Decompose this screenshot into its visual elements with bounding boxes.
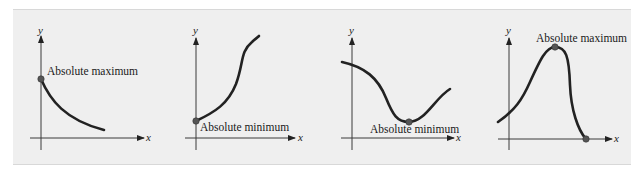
absolute-maximum-point: [38, 76, 44, 82]
x-axis-label: x: [297, 131, 303, 143]
annotation-label: Absolute minimum: [370, 123, 459, 135]
function-curve: [498, 47, 586, 139]
function-curve: [342, 62, 450, 122]
x-axis-label: x: [613, 132, 619, 144]
absolute-maximum-point: [552, 44, 558, 50]
graph-2: y x Absolute minimum: [185, 24, 303, 150]
function-curve: [41, 79, 104, 130]
y-axis-label: y: [192, 24, 198, 36]
annotation-label: Absolute minimum: [200, 121, 289, 133]
x-axis-label: x: [145, 131, 151, 143]
y-axis-label: y: [348, 24, 354, 36]
function-curve: [196, 36, 259, 121]
annotation-label: Absolute maximum: [536, 32, 627, 44]
graph-4: y x Absolute maximum: [498, 24, 627, 150]
graph-3: y x Absolute minimum: [341, 24, 461, 150]
absolute-minimum-point: [193, 118, 199, 124]
extrema-diagram: y x Absolute maximum y x Absolute minimu…: [0, 0, 643, 174]
endpoint-point: [583, 136, 589, 142]
y-axis-label: y: [37, 24, 43, 36]
annotation-label: Absolute maximum: [47, 65, 138, 77]
y-axis-label: y: [505, 24, 511, 36]
graph-1: y x Absolute maximum: [30, 24, 151, 150]
